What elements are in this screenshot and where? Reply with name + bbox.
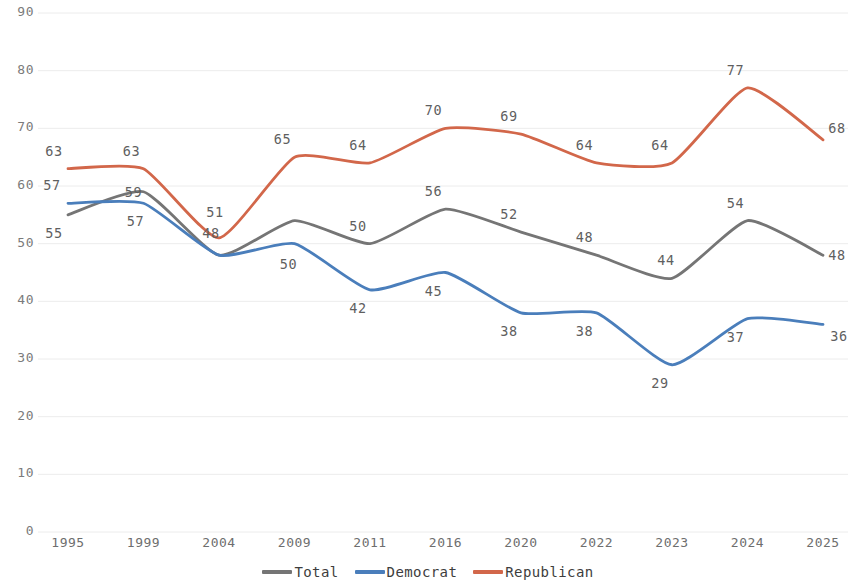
data-label-republican: 65	[266, 131, 300, 147]
data-label-republican: 70	[417, 102, 451, 118]
data-label-democrat: 38	[492, 323, 526, 339]
x-tick-label: 2011	[340, 535, 400, 550]
data-label-total: 48	[820, 247, 854, 263]
legend-swatch-icon	[473, 570, 503, 574]
data-label-total: 59	[117, 184, 151, 200]
x-tick-label: 2020	[491, 535, 551, 550]
y-tick-label: 10	[0, 465, 34, 480]
data-label-total: 54	[719, 195, 753, 211]
series-lines	[68, 88, 823, 365]
legend-label: Total	[294, 564, 338, 580]
x-tick-label: 1999	[114, 535, 174, 550]
data-label-republican: 68	[820, 120, 854, 136]
legend-item-total[interactable]: Total	[262, 564, 338, 580]
y-tick-label: 20	[0, 408, 34, 423]
data-label-republican: 63	[115, 143, 149, 159]
data-label-republican: 64	[568, 137, 602, 153]
data-label-democrat: 36	[822, 328, 856, 344]
data-label-republican: 63	[37, 143, 71, 159]
data-label-democrat: 50	[272, 256, 306, 272]
data-label-total: 55	[37, 225, 71, 241]
data-label-democrat: 38	[568, 323, 602, 339]
data-label-total: 44	[649, 252, 683, 268]
data-label-democrat: 57	[119, 213, 153, 229]
x-tick-label: 2009	[265, 535, 325, 550]
x-tick-label: 2022	[567, 535, 627, 550]
data-label-democrat: 45	[417, 283, 451, 299]
data-label-total: 50	[341, 218, 375, 234]
x-tick-label: 2025	[793, 535, 853, 550]
data-label-total: 48	[568, 229, 602, 245]
y-tick-label: 40	[0, 292, 34, 307]
y-tick-label: 50	[0, 235, 34, 250]
legend-item-republican[interactable]: Republican	[473, 564, 593, 580]
data-label-democrat: 29	[643, 375, 677, 391]
x-tick-label: 2023	[642, 535, 702, 550]
y-tick-label: 60	[0, 177, 34, 192]
y-tick-label: 0	[0, 523, 34, 538]
data-label-democrat: 37	[719, 329, 753, 345]
data-label-democrat: 57	[35, 177, 69, 193]
data-label-total: 56	[417, 183, 451, 199]
chart-legend: TotalDemocratRepublican	[0, 564, 856, 580]
data-label-republican: 69	[492, 108, 526, 124]
y-tick-label: 90	[0, 4, 34, 19]
x-tick-label: 2024	[718, 535, 778, 550]
y-tick-label: 30	[0, 350, 34, 365]
data-label-total: 48	[194, 225, 228, 241]
x-tick-label: 1995	[38, 535, 98, 550]
data-label-total: 52	[492, 206, 526, 222]
y-tick-label: 80	[0, 62, 34, 77]
data-label-republican: 64	[643, 137, 677, 153]
data-label-democrat: 42	[341, 300, 375, 316]
legend-item-democrat[interactable]: Democrat	[355, 564, 458, 580]
x-tick-label: 2016	[416, 535, 476, 550]
line-chart: 0102030405060708090 19951999200420092011…	[0, 0, 856, 587]
y-tick-label: 70	[0, 119, 34, 134]
legend-label: Republican	[505, 564, 593, 580]
data-label-republican: 51	[198, 204, 232, 220]
data-label-republican: 64	[341, 137, 375, 153]
x-tick-label: 2004	[189, 535, 249, 550]
legend-swatch-icon	[355, 570, 385, 574]
data-label-republican: 77	[719, 62, 753, 78]
legend-swatch-icon	[262, 570, 292, 574]
legend-label: Democrat	[387, 564, 458, 580]
